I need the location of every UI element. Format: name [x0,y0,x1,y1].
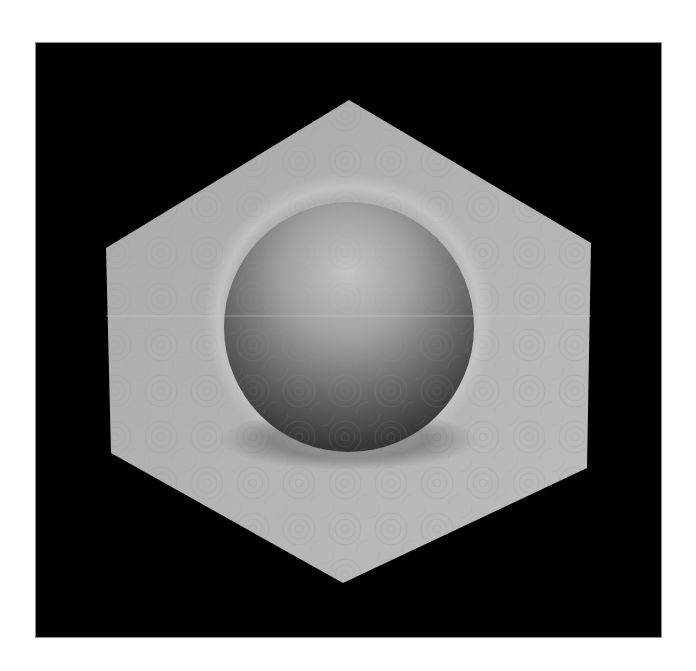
rendered-scene [0,0,696,671]
image-canvas: 3D render of a shaded gray sphere restin… [0,0,696,671]
sphere [224,202,474,452]
